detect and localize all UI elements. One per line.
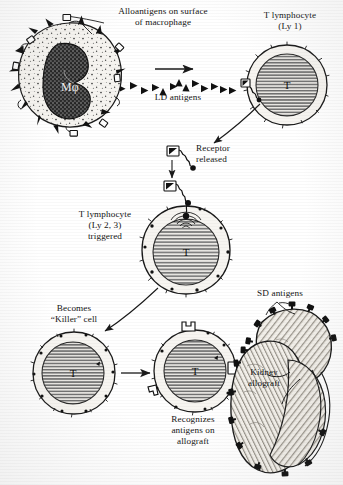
label-alloantigens: Alloantigens on surface of macrophage	[102, 6, 224, 28]
label-receptor-released: Receptor released	[196, 143, 258, 165]
released-receptor-1	[167, 146, 196, 171]
label-recognizes: Recognizes antigens on allograft	[147, 414, 239, 447]
alloantigen-leader-line	[71, 17, 105, 24]
receptor-release-arrow	[214, 104, 260, 143]
label-ld-antigens: LD antigens	[141, 92, 215, 103]
t-lymphocyte-triggered: T	[140, 205, 233, 297]
antigen-receptor-top	[182, 322, 195, 331]
recognizing-nucleus-letter: T	[192, 365, 199, 377]
label-t-lymphocyte-ly23: T lymphocyte (Ly 2, 3) triggered	[64, 209, 146, 242]
released-receptor-2	[164, 181, 191, 206]
label-sd-antigens: SD antigens	[241, 288, 319, 299]
t-cell-nucleus-letter: T	[284, 79, 291, 91]
label-kidney-allograft: Kidney allograft	[229, 367, 299, 389]
killer-nucleus-letter: T	[70, 367, 77, 379]
antigen-receptor-left	[148, 385, 158, 395]
macrophage-nucleus-letter: Mφ	[53, 80, 87, 94]
t-lymphocyte-ly1: T	[241, 42, 329, 129]
diagram-artwork: T	[0, 0, 343, 485]
macrophage-cell	[9, 15, 126, 137]
label-becomes-killer: Becomes “Killer” cell	[32, 303, 116, 325]
label-t-lymphocyte-ly1: T lymphocyte (Ly 1)	[244, 10, 336, 32]
kidney-allograft	[228, 302, 337, 477]
diagram-canvas: T	[0, 0, 343, 485]
triggered-nucleus-letter: T	[183, 246, 190, 258]
killer-cell: T	[31, 329, 118, 418]
